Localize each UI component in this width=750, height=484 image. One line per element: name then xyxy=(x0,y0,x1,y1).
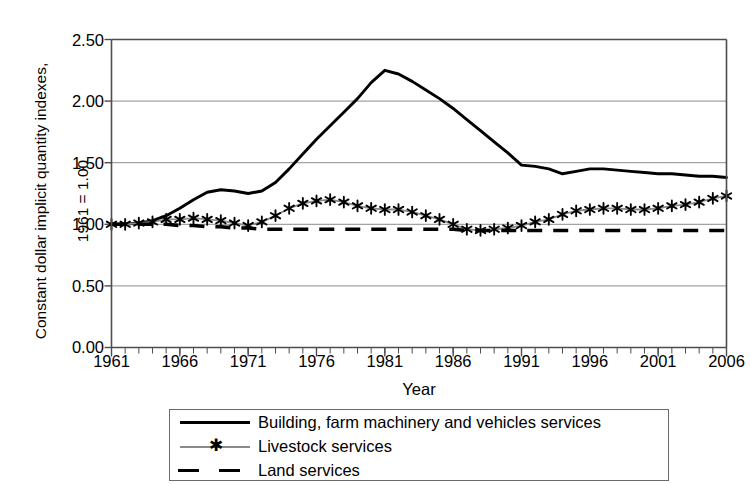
legend-item-livestock: ✱ Livestock services xyxy=(170,434,668,458)
legend-label: Building, farm machinery and vehicles se… xyxy=(258,413,601,432)
legend-label: Land services xyxy=(258,461,360,480)
x-axis-title: Year xyxy=(111,380,727,399)
legend-label: Livestock services xyxy=(258,437,392,456)
x-tick-label: 1981 xyxy=(350,352,420,371)
legend-key-dashed-line-icon xyxy=(176,458,254,482)
plot-area xyxy=(0,0,750,400)
legend-key-solid-line-icon xyxy=(176,410,254,434)
chart-figure: Constant dollar implicit quantity indexe… xyxy=(0,0,750,484)
legend-item-land: Land services xyxy=(170,458,668,482)
legend-item-building: Building, farm machinery and vehicles se… xyxy=(170,410,668,434)
chart-legend: Building, farm machinery and vehicles se… xyxy=(169,409,669,481)
x-tick-label: 1986 xyxy=(418,352,488,371)
legend-key-asterisk-line-icon: ✱ xyxy=(176,434,254,458)
x-tick-label: 1961 xyxy=(77,352,147,371)
x-tick-label: 1996 xyxy=(555,352,625,371)
x-tick-label: 2001 xyxy=(623,352,693,371)
data-series-layer xyxy=(107,70,731,236)
y-axis-tick-marks xyxy=(105,40,112,348)
x-tick-label: 1976 xyxy=(282,352,352,371)
gridlines xyxy=(112,40,727,286)
x-tick-label: 1991 xyxy=(487,352,557,371)
x-tick-label: 1966 xyxy=(145,352,215,371)
x-tick-label: 1971 xyxy=(213,352,283,371)
x-tick-label: 2006 xyxy=(692,352,750,371)
